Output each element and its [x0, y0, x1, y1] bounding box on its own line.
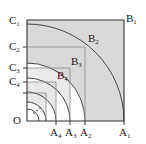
label-B2: B2: [88, 33, 99, 45]
label-A1: A1: [119, 127, 130, 139]
label-C1: C1: [9, 15, 20, 27]
label-A3: A3: [65, 127, 76, 139]
label-C3: C3: [9, 62, 20, 74]
dot-3: [39, 107, 41, 109]
geometry-figure: [0, 0, 146, 144]
label-C4: C4: [9, 76, 20, 88]
label-B3: B3: [71, 56, 82, 68]
label-B4: B4: [57, 70, 68, 82]
label-A4: A4: [50, 127, 61, 139]
label-A2: A2: [80, 127, 91, 139]
label-B1: B1: [126, 13, 137, 25]
dot-2: [36, 110, 38, 112]
dot-1: [33, 112, 35, 114]
label-C2: C2: [9, 41, 20, 53]
label-origin: O: [13, 115, 21, 126]
